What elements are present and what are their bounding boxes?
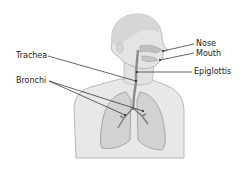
bronchi-pointer-right bbox=[142, 110, 144, 112]
anatomy-illustration bbox=[0, 0, 244, 173]
label-nose: Nose bbox=[196, 40, 216, 48]
mouth-pointer bbox=[159, 59, 161, 61]
nose-pointer bbox=[162, 50, 164, 52]
bronchi-pointer-left bbox=[124, 114, 126, 116]
ear-shape bbox=[117, 43, 123, 53]
label-trachea: Trachea bbox=[16, 52, 47, 60]
epiglottis-pointer bbox=[136, 71, 138, 73]
respiratory-diagram: Nose Mouth Epiglottis Trachea Bronchi bbox=[0, 0, 244, 173]
trachea-pointer bbox=[135, 80, 137, 82]
label-bronchi: Bronchi bbox=[16, 77, 46, 85]
nose-leader bbox=[163, 44, 194, 51]
label-mouth: Mouth bbox=[196, 50, 221, 58]
mouth-leader bbox=[160, 53, 194, 60]
label-epiglottis: Epiglottis bbox=[194, 68, 231, 76]
